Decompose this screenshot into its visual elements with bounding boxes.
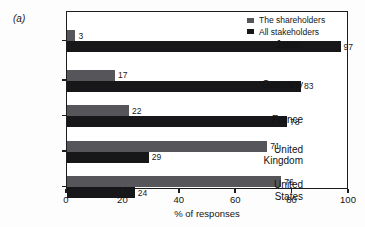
- bar-value-label: 29: [152, 153, 161, 162]
- legend-item: The shareholders: [247, 16, 325, 25]
- bar-germany-shareholders: [67, 70, 115, 81]
- x-axis-tick-label: 60: [230, 194, 241, 205]
- bar-united-kingdom-shareholders: [67, 141, 267, 152]
- x-axis-tick-label: 80: [286, 194, 297, 205]
- x-axis-tick: [65, 189, 67, 193]
- x-axis-tick: [234, 189, 236, 193]
- x-axis-tick-label: 0: [63, 194, 68, 205]
- x-axis-tick-label: 40: [174, 194, 185, 205]
- x-axis-tick-label: 20: [117, 194, 128, 205]
- x-axis-tick: [178, 189, 180, 193]
- bar-japan-shareholders: [67, 30, 75, 41]
- legend-label: The shareholders: [259, 16, 325, 25]
- y-axis-tick: [62, 79, 66, 81]
- plot-area: 3971783227871297624 The shareholdersAll …: [66, 11, 348, 189]
- y-axis-tick: [62, 150, 66, 152]
- legend-label: All stakeholders: [259, 28, 319, 37]
- bars-layer: 3971783227871297624: [67, 12, 347, 188]
- x-axis-title: % of responses: [66, 208, 348, 219]
- bar-value-label: 3: [78, 31, 83, 40]
- y-axis-tick: [62, 115, 66, 117]
- x-axis-tick-label: 100: [340, 194, 356, 205]
- y-axis-tick: [62, 40, 66, 42]
- bar-value-label: 24: [138, 189, 147, 198]
- chart-legend: The shareholdersAll stakeholders: [247, 16, 325, 36]
- category-label-japan: Japan: [245, 39, 303, 51]
- bar-france-shareholders: [67, 105, 129, 116]
- legend-swatch-dark-icon: [247, 29, 254, 34]
- bar-value-label: 17: [118, 71, 127, 80]
- x-axis-tick: [291, 189, 293, 193]
- figure-panel: (a) 3971783227871297624 The shareholders…: [0, 0, 365, 227]
- bar-value-label: 83: [304, 82, 313, 91]
- bar-united-kingdom-stakeholders: [67, 152, 149, 163]
- legend-swatch-light-icon: [247, 18, 254, 23]
- category-label-united-kingdom: United Kingdom: [245, 144, 303, 167]
- bar-value-label: 22: [132, 106, 141, 115]
- legend-item: All stakeholders: [247, 28, 325, 37]
- y-axis-tick: [62, 186, 66, 188]
- x-axis-tick: [122, 189, 124, 193]
- x-axis-tick: [347, 189, 349, 193]
- category-label-france: France: [245, 114, 303, 126]
- panel-letter: (a): [13, 13, 25, 24]
- bar-value-label: 97: [344, 42, 353, 51]
- category-label-germany: Germany: [245, 79, 303, 91]
